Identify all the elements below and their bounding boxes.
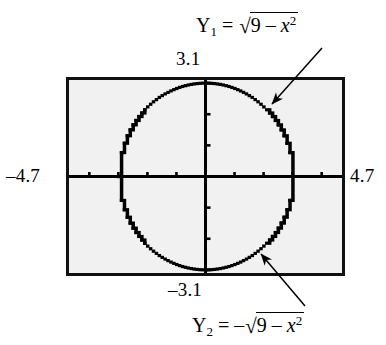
y2-equals: = xyxy=(218,314,229,336)
graphing-calculator-figure: Y1 = √9 – x2 Y2 = –√9 – x2 3.1 –3.1 –4.7… xyxy=(0,0,386,345)
y1-radicand-minus: – xyxy=(266,14,276,36)
window-label-ymin: –3.1 xyxy=(168,280,202,299)
y1-name: Y xyxy=(196,14,210,36)
plot-area xyxy=(69,80,342,273)
y2-radicand-exp: 2 xyxy=(296,313,303,328)
curve-pixel xyxy=(291,175,295,202)
curve-pixel xyxy=(262,245,266,248)
function-label-y1: Y1 = √9 – x2 xyxy=(196,12,298,38)
y1-equals: = xyxy=(222,14,233,36)
window-label-ymax: 3.1 xyxy=(176,49,200,68)
y2-name: Y xyxy=(192,314,206,336)
y1-subscript: 1 xyxy=(210,24,217,39)
y1-radical: √9 – x2 xyxy=(238,12,298,36)
y2-radicand-minus: – xyxy=(272,314,282,336)
y1-radicand-a: 9 xyxy=(251,14,261,36)
curve-pixel xyxy=(262,105,266,108)
window-label-xmax: 4.7 xyxy=(350,166,374,185)
calculator-screen xyxy=(66,77,345,276)
y2-radicand-a: 9 xyxy=(257,314,267,336)
y1-radicand-var: x xyxy=(281,14,290,36)
curve-pixel xyxy=(120,151,124,178)
y2-sign: – xyxy=(234,314,244,336)
y2-radical: √9 – x2 xyxy=(244,312,304,336)
curve-pixel xyxy=(291,151,295,178)
curve-pixel xyxy=(143,238,147,244)
window-label-xmin: –4.7 xyxy=(6,166,40,185)
y1-radicand-exp: 2 xyxy=(290,13,297,28)
curve-pixel xyxy=(120,175,124,202)
radical-sign-icon: √ xyxy=(239,16,251,37)
function-label-y2: Y2 = –√9 – x2 xyxy=(192,312,304,338)
curve-pixel xyxy=(143,108,147,114)
y2-radicand-var: x xyxy=(287,314,296,336)
y2-subscript: 2 xyxy=(206,324,213,339)
radical-sign-icon: √ xyxy=(245,316,257,337)
